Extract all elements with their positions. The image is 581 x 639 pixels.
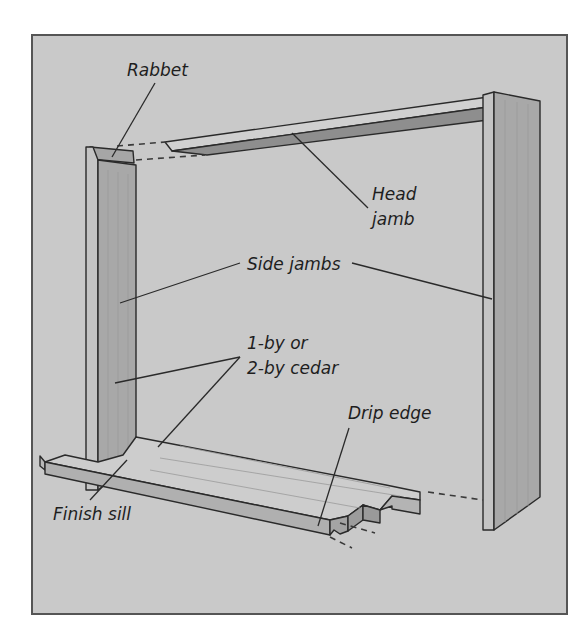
label-head-jamb-line2: jamb — [370, 209, 415, 229]
label-head-jamb-line1: Head — [372, 184, 417, 204]
right-side-jamb — [483, 92, 540, 530]
left-side-jamb — [86, 147, 136, 490]
label-side-jambs: Side jambs — [247, 254, 341, 274]
label-finish-sill: Finish sill — [53, 504, 131, 524]
window-frame-diagram: Rabbet Head jamb Side jambs 1-by or 2-by… — [0, 0, 581, 639]
label-rabbet: Rabbet — [127, 60, 189, 80]
label-drip-edge: Drip edge — [348, 403, 432, 423]
label-material-line2: 2-by cedar — [247, 358, 339, 378]
label-material-line1: 1-by or — [247, 333, 309, 353]
